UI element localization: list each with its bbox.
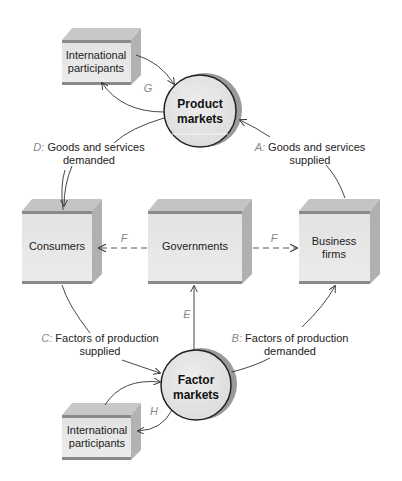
flow-b-arrow-head — [302, 286, 335, 327]
flow-e-label: E — [183, 308, 191, 320]
factor-markets-line1: Factor — [178, 373, 215, 387]
flow-c-label-line1: C: Factors of production — [41, 332, 158, 344]
circular-flow-diagram: International participants Product marke… — [0, 0, 402, 481]
intl-top-line1: International — [66, 49, 127, 61]
flow-g-arrow-in — [136, 55, 174, 84]
flow-g-label: G — [144, 82, 153, 94]
consumers-box: Consumers — [22, 199, 102, 284]
flow-c-label-line2: supplied — [80, 345, 121, 357]
business-firms-box: Business firms — [299, 199, 380, 284]
product-markets-circle: Product markets — [164, 73, 242, 147]
flow-b-label-line2: demanded — [264, 345, 316, 357]
flow-f-left-label: F — [121, 232, 129, 244]
business-line2: firms — [322, 248, 346, 260]
flow-h-label: H — [150, 405, 158, 417]
intl-bottom-line1: International — [67, 424, 128, 436]
intl-bottom-line2: participants — [69, 437, 126, 449]
governments-label: Governments — [162, 240, 229, 252]
product-markets-line2: markets — [177, 112, 223, 126]
flow-c-arrow — [62, 285, 90, 333]
intl-participants-bottom-box: International participants — [62, 403, 141, 460]
flow-a-arrow-head — [240, 120, 270, 137]
intl-participants-top-box: International participants — [62, 28, 141, 85]
flow-c-arrow-head — [122, 360, 160, 373]
intl-top-line2: participants — [68, 62, 125, 74]
business-line1: Business — [312, 235, 357, 247]
flow-h-arrow-in — [105, 381, 160, 405]
product-markets-line1: Product — [177, 97, 222, 111]
flow-a-label-line2: supplied — [290, 154, 331, 166]
flow-d-label-line1: D: Goods and services — [33, 141, 145, 153]
flow-a-label-line1: A: Goods and services — [254, 141, 366, 153]
consumers-label: Consumers — [29, 240, 86, 252]
flow-g-arrow-out — [102, 83, 164, 112]
factor-markets-circle: Factor markets — [161, 348, 237, 420]
flow-b-arrow — [232, 358, 270, 372]
governments-box: Governments — [148, 199, 252, 284]
flow-f-right-label: F — [271, 232, 279, 244]
flow-a-arrow — [326, 165, 345, 198]
factor-markets-line2: markets — [173, 388, 219, 402]
flow-b-label-line1: B: Factors of production — [232, 332, 349, 344]
flow-d-label-line2: demanded — [63, 154, 115, 166]
